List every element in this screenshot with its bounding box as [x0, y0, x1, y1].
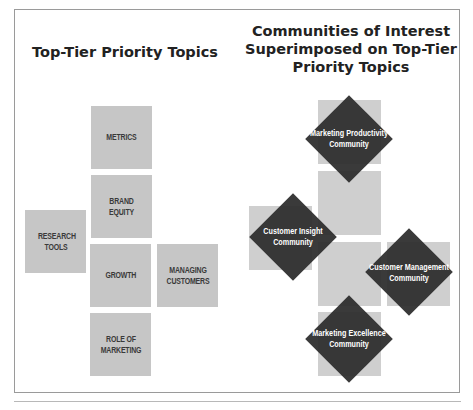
topic-label: GROWTH	[105, 270, 136, 281]
community-label-line: Community	[367, 273, 452, 284]
left-panel-title: Top-Tier Priority Topics	[20, 43, 230, 61]
title-line-2: Superimposed on Top-Tier	[240, 40, 462, 58]
topic-label: BRAND EQUITY	[96, 196, 146, 218]
topic-label: MANAGING CUSTOMERS	[165, 265, 211, 287]
community-label-line: Marketing Excellence	[307, 328, 392, 339]
topic-label: ROLE OF MARKETING	[100, 334, 141, 356]
community-label-line: Community	[307, 139, 392, 150]
bottom-rule	[14, 401, 461, 402]
topic-metrics: METRICS	[91, 106, 152, 169]
topic-managing-customers: MANAGING CUSTOMERS	[157, 244, 218, 307]
topic-role-of-marketing: ROLE OF MARKETING	[90, 313, 151, 376]
topic-label: RESEARCH TOOLS	[37, 231, 73, 253]
title-line-3: Priority Topics	[240, 58, 462, 76]
community-label-customer-insight: Customer Insight Community	[251, 226, 336, 248]
community-label-marketing-excellence: Marketing Excellence Community	[307, 328, 392, 350]
community-label-customer-management: Customer Management Community	[367, 262, 452, 284]
title-line-1: Communities of Interest	[240, 22, 462, 40]
topic-growth: GROWTH	[90, 244, 151, 307]
topic-label: METRICS	[106, 132, 136, 143]
community-label-marketing-productivity: Marketing Productivity Community	[307, 128, 392, 150]
community-label-line: Customer Insight	[251, 226, 336, 237]
right-panel-title: Communities of Interest Superimposed on …	[240, 22, 462, 76]
community-label-line: Marketing Productivity	[307, 128, 392, 139]
topic-brand-equity: BRAND EQUITY	[91, 175, 152, 238]
community-label-line: Community	[307, 339, 392, 350]
community-label-line: Community	[251, 237, 336, 248]
community-label-line: Customer Management	[367, 262, 452, 273]
topic-research-tools: RESEARCH TOOLS	[25, 210, 86, 273]
